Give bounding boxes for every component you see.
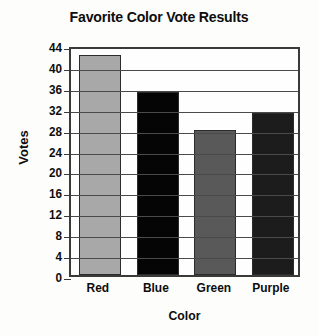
- chart-title: Favorite Color Vote Results: [10, 8, 309, 25]
- y-axis-tick-label: 4: [35, 250, 62, 263]
- gridline: [71, 237, 298, 238]
- gridline: [71, 70, 298, 71]
- gridline: [71, 216, 298, 217]
- x-axis-label-blue: Blue: [129, 280, 182, 295]
- y-axis-tick-label: 20: [35, 166, 62, 179]
- gridline: [71, 258, 298, 259]
- y-axis-tick-label: 24: [35, 146, 62, 159]
- y-axis-tick-label: 8: [35, 229, 62, 242]
- bar-green: [194, 130, 236, 275]
- gridline: [71, 133, 298, 134]
- y-axis-tick-mark: [64, 195, 71, 196]
- y-axis-title: Votes: [16, 108, 31, 188]
- x-axis-tick-labels: RedBlueGreenPurple: [69, 280, 300, 300]
- y-axis-tick-labels: 444036322824201612840: [28, 47, 62, 277]
- plot-area: [69, 47, 300, 277]
- y-axis-tick-mark: [64, 91, 71, 92]
- y-axis-tick-label: 28: [35, 125, 62, 138]
- y-axis-tick-mark: [64, 49, 71, 50]
- y-axis-tick-label: 12: [35, 208, 62, 221]
- y-axis-tick-mark: [64, 112, 71, 113]
- y-axis-tick-mark: [64, 174, 71, 175]
- y-axis-tick-label: 0: [35, 271, 62, 284]
- y-axis-tick-label: 16: [35, 187, 62, 200]
- bar-red: [79, 55, 121, 275]
- y-axis-tick-label: 40: [35, 62, 62, 75]
- gridline: [71, 195, 298, 196]
- chart-screenshot: Favorite Color Vote Results 444036322824…: [0, 0, 318, 336]
- x-axis-label-purple: Purple: [245, 280, 298, 295]
- x-axis-label-green: Green: [187, 280, 240, 295]
- y-axis-tick-label: 44: [35, 41, 62, 54]
- y-axis-tick-mark: [64, 133, 71, 134]
- gridline: [71, 112, 298, 113]
- x-axis-label-red: Red: [71, 280, 124, 295]
- gridline: [71, 154, 298, 155]
- y-axis-tick-mark: [64, 258, 71, 259]
- x-axis-title: Color: [76, 308, 293, 323]
- y-axis-tick-label: 36: [35, 83, 62, 96]
- y-axis-tick-mark: [64, 216, 71, 217]
- bar-blue: [137, 92, 179, 275]
- plot-inner: [71, 49, 298, 275]
- y-axis-tick-label: 32: [35, 104, 62, 117]
- gridline: [71, 91, 298, 92]
- y-axis-tick-mark: [64, 154, 71, 155]
- y-axis-tick-mark: [64, 70, 71, 71]
- y-axis-tick-mark: [64, 279, 71, 280]
- y-axis-tick-mark: [64, 237, 71, 238]
- bar-purple: [252, 113, 294, 275]
- gridline: [71, 174, 298, 175]
